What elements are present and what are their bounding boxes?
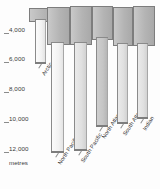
bar-cap-indian [133, 6, 155, 46]
bar-arctic[interactable] [35, 19, 46, 63]
bar-side-face [86, 43, 87, 149]
bar-side-face [63, 43, 64, 151]
bar-south-atlantic[interactable] [117, 43, 128, 123]
label-leader-indian [140, 119, 143, 124]
bar-side-face [127, 44, 128, 122]
bar-side-face [107, 38, 108, 125]
bar-cap-face [114, 8, 132, 45]
plot-area: Arctic North Pacific South Pacific [0, 0, 160, 189]
bar-north-pacific[interactable] [51, 42, 64, 152]
label-leader-north-pacific [55, 153, 58, 158]
bar-side-face [45, 20, 46, 62]
bar-cap-face [134, 7, 154, 45]
label-leader-arctic [38, 64, 41, 69]
bar-indian[interactable] [137, 43, 148, 118]
bar-cap-north-atlantic [92, 6, 113, 40]
bar-cap-south-pacific [70, 6, 92, 45]
label-leader-south-atlantic [120, 124, 123, 129]
bar-cap-south-atlantic [113, 7, 133, 46]
bar-cap-face [48, 8, 69, 44]
bar-cap-face [71, 7, 91, 44]
bar-north-atlantic[interactable] [96, 37, 108, 126]
label-leader-north-atlantic [99, 127, 102, 132]
bar-cap-face [93, 7, 112, 39]
label-leader-south-pacific [78, 151, 81, 156]
ocean-depth-chart: 4,000 6,000 8,000 10,000 12,000 metres [0, 0, 160, 189]
bar-side-face [147, 44, 148, 117]
bar-south-pacific[interactable] [74, 42, 87, 150]
bar-cap-north-pacific [47, 7, 70, 45]
